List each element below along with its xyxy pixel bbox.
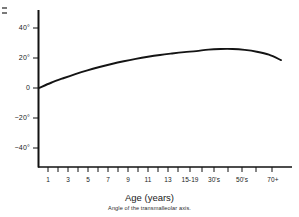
- x-axis-title: Age (years): [0, 192, 299, 203]
- y-tick-label-minus-40: −40°: [6, 144, 30, 151]
- data-series-line: [39, 49, 281, 88]
- x-tick-label-5: 5: [78, 176, 98, 183]
- x-tick-label-70plus: 70+: [262, 176, 284, 183]
- x-tick-label-30s: 30's: [203, 176, 225, 183]
- axes: [38, 10, 292, 168]
- chart-figure: 40° 20° 0 −20° −40° 1 3 5 7 9 11 13 15-1…: [0, 0, 299, 217]
- x-tick-label-7: 7: [98, 176, 118, 183]
- x-tick-label-11: 11: [138, 176, 158, 183]
- y-tick-label-20: 20°: [10, 54, 30, 61]
- plot-area: [0, 0, 299, 217]
- y-tick-label-40: 40°: [10, 24, 30, 31]
- x-tick-label-1: 1: [38, 176, 58, 183]
- x-tick-label-50s: 50's: [231, 176, 253, 183]
- x-tick-label-3: 3: [58, 176, 78, 183]
- figure-caption: Angle of the transmalleolar axis.: [0, 205, 299, 211]
- x-tick-label-13: 13: [158, 176, 178, 183]
- x-tick-label-9: 9: [118, 176, 138, 183]
- y-tick-label-0: 0: [10, 84, 30, 91]
- y-tick-label-minus-20: −20°: [6, 114, 30, 121]
- x-tick-label-15-19: 15-19: [178, 176, 202, 183]
